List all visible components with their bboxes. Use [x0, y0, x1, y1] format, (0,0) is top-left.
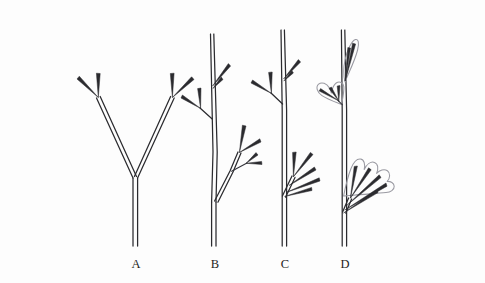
panel-c-main-axis-left [281, 30, 282, 246]
panel-b-lateral-lower-fork-out [239, 139, 261, 153]
panel-b-lateral-sub-branch [232, 163, 247, 171]
panel-a-plant [77, 73, 194, 246]
panel-b-lateral-lower-outer [215, 152, 238, 201]
panel-a-right-fork-outer [172, 77, 194, 98]
panel-a-left-fork-upper [96, 73, 100, 97]
panel-d-plant [317, 30, 394, 246]
panel-d-main-axis-left [341, 30, 342, 246]
panel-label-d: D [340, 257, 349, 271]
panel-c-lateral-left-upper [271, 93, 283, 104]
panel-a-arm-left-outer [97, 98, 134, 178]
panel-b-lateral-left-fork-up [198, 88, 201, 108]
panel-d-upper-leaf-vein-2 [329, 87, 339, 101]
panel-d-upper-leaf-outline [317, 82, 344, 105]
panel-a-right-fork-upper [170, 73, 174, 97]
panel-a-arm-right-outer [138, 98, 175, 178]
panel-label-b: B [211, 257, 219, 271]
panel-c-plant [251, 30, 320, 246]
figure-canvas: A B C D [0, 0, 485, 283]
panel-a-arm-right-inner [134, 97, 170, 177]
panel-c-lateral-left-upper-fork-up [269, 72, 273, 93]
panel-c-twig-right-apex [284, 60, 301, 79]
panel-a-arm-left-inner [100, 97, 136, 177]
panel-b-lateral-left-fork-out [181, 95, 201, 108]
panel-label-a: A [131, 257, 140, 271]
panel-label-c: C [281, 257, 289, 271]
panel-b-plant [181, 34, 262, 246]
panel-c-fan-ray-1 [293, 152, 297, 177]
panel-b-lateral-left-upper [200, 108, 212, 119]
panel-labels: A B C D [131, 257, 349, 271]
panel-c-main-axis-right [284, 30, 286, 246]
panel-b-lateral-lower-fork-up [239, 125, 246, 152]
panel-c-lateral-left-upper-fork-out [251, 80, 271, 93]
panel-a-left-fork-outer [77, 76, 98, 97]
panel-b-lateral-lower-inner [218, 153, 241, 202]
panel-b-lateral-sub-fork-up [246, 153, 258, 164]
telome-theory-figure: A B C D [0, 0, 485, 283]
panel-b-main-axis-right [214, 34, 217, 202]
